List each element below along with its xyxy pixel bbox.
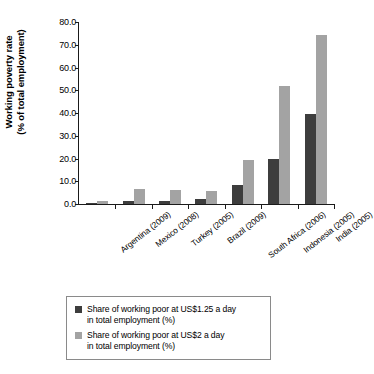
y-tick-label: 30.0 <box>34 132 76 141</box>
bar-series1[interactable] <box>159 201 170 204</box>
x-axis-labels: Argentina (2009)Mexico (2008)Turkey (200… <box>78 206 333 280</box>
bar-group <box>225 22 261 204</box>
y-tick-label: 60.0 <box>34 64 76 73</box>
bar-series1[interactable] <box>86 203 97 204</box>
bar-series2[interactable] <box>134 189 145 204</box>
legend-label: Share of working poor at US$2 a day in t… <box>87 330 224 351</box>
y-tick-label: 0.0 <box>34 200 76 209</box>
legend-label: Share of working poor at US$1.25 a day i… <box>87 304 236 325</box>
legend-label-line1: Share of working poor at US$1.25 a day <box>87 304 236 314</box>
y-tick-label: 10.0 <box>34 177 76 186</box>
bar-series1[interactable] <box>123 201 134 204</box>
legend-label-line2: in total employment (%) <box>87 341 175 351</box>
bar-series1[interactable] <box>232 185 243 204</box>
y-axis-title-line1: Working poverty rate <box>3 36 14 129</box>
bar-group <box>261 22 297 204</box>
bar-series2[interactable] <box>279 86 290 204</box>
x-tick-mark <box>334 204 335 209</box>
legend-swatch-icon <box>75 332 82 339</box>
plot-container: Working poverty rate (% of total employm… <box>0 0 342 280</box>
y-axis-ticks: 80.0 70.0 60.0 50.0 40.0 30.0 20.0 10.0 … <box>32 0 76 210</box>
plot-axes <box>78 22 334 205</box>
bar-groups <box>79 22 334 204</box>
y-axis-title: Working poverty rate (% of total employm… <box>3 0 31 172</box>
bar-series1[interactable] <box>305 114 316 204</box>
legend-label-line2: in total employment (%) <box>87 315 175 325</box>
y-tick-label: 50.0 <box>34 86 76 95</box>
bar-group <box>152 22 188 204</box>
legend-swatch-icon <box>75 306 82 313</box>
bar-series2[interactable] <box>97 201 108 204</box>
bar-series2[interactable] <box>206 191 217 204</box>
y-axis-title-line2: (% of total employment) <box>15 29 26 134</box>
bar-series1[interactable] <box>195 199 206 204</box>
bar-group <box>188 22 224 204</box>
bar-series2[interactable] <box>243 160 254 204</box>
bar-series1[interactable] <box>268 159 279 204</box>
y-tick-label: 80.0 <box>34 18 76 27</box>
y-tick-mark <box>75 204 80 205</box>
y-tick-label: 40.0 <box>34 109 76 118</box>
bar-series2[interactable] <box>170 190 181 204</box>
chart-legend: Share of working poor at US$1.25 a day i… <box>66 296 271 360</box>
y-tick-label: 70.0 <box>34 41 76 50</box>
legend-item-series1[interactable]: Share of working poor at US$1.25 a day i… <box>75 304 262 325</box>
bar-series2[interactable] <box>316 35 327 204</box>
legend-label-line1: Share of working poor at US$2 a day <box>87 330 224 340</box>
y-tick-label: 20.0 <box>34 155 76 164</box>
bar-group <box>298 22 334 204</box>
bar-group <box>79 22 115 204</box>
bar-group <box>115 22 151 204</box>
legend-item-series2[interactable]: Share of working poor at US$2 a day in t… <box>75 330 262 351</box>
